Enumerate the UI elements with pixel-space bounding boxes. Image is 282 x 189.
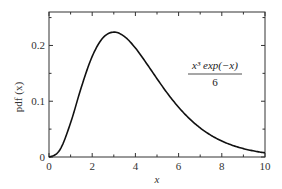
x-tick-label: 4	[133, 160, 139, 172]
x-tick-label: 10	[260, 160, 272, 172]
x-tick-label: 2	[89, 160, 95, 172]
x-tick-label: 6	[176, 160, 182, 172]
y-axis-label: pdf (x)	[12, 82, 25, 113]
formula-numerator: x³ exp(−x)	[191, 59, 238, 72]
x-tick-label: 0	[46, 160, 52, 172]
y-tick-label: 0	[40, 151, 46, 163]
pdf-chart: 024681000.10.2 x pdf (x) x³ exp(−x) 6	[0, 0, 282, 189]
x-axis-label: x	[154, 173, 160, 185]
formula-denominator: 6	[212, 76, 218, 88]
y-tick-label: 0.1	[31, 95, 45, 107]
x-tick-label: 8	[219, 160, 225, 172]
y-tick-label: 0.2	[31, 39, 45, 51]
pdf-curve	[49, 32, 265, 157]
formula-annotation: x³ exp(−x) 6	[188, 59, 242, 88]
